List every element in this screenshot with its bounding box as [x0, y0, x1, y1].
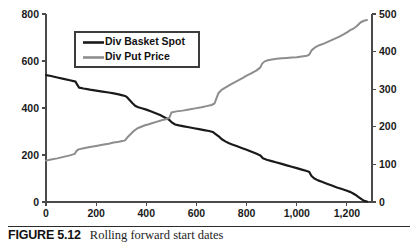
x-axis-ticks: 02004006008001,0001,200: [43, 202, 360, 219]
y-axis-left-tick-label: 800: [21, 8, 39, 20]
legend-label-div-basket-spot: Div Basket Spot: [105, 35, 185, 47]
figure-container: 0200400600800 0100200300400500 020040060…: [0, 0, 418, 252]
x-axis-tick-label: 400: [138, 207, 156, 219]
x-axis-tick-label: 600: [188, 207, 206, 219]
series-line-div-basket-spot: [46, 75, 367, 201]
figure-number-label: FIGURE 5.12: [8, 228, 81, 242]
y-axis-right-tick-label: 300: [379, 83, 397, 95]
x-axis-tick-label: 200: [87, 207, 105, 219]
y-axis-right-ticks: 0100200300400500: [372, 8, 397, 208]
legend-label-div-put-price: Div Put Price: [105, 50, 170, 62]
y-axis-right-tick-label: 200: [379, 120, 397, 132]
y-axis-left-tick-label: 200: [21, 149, 39, 161]
y-axis-right-tick-label: 400: [379, 45, 397, 57]
figure-caption-text: Rolling forward start dates: [90, 228, 224, 243]
x-axis-tick-label: 800: [238, 207, 256, 219]
y-axis-left-tick-label: 400: [21, 102, 39, 114]
caption-divider: [8, 226, 410, 227]
chart-svg: 0200400600800 0100200300400500 020040060…: [0, 0, 418, 222]
x-axis-tick-label: 1,200: [334, 207, 360, 219]
chart-plot-area: 0200400600800 0100200300400500 020040060…: [0, 0, 418, 222]
x-axis-tick-label: 1,000: [284, 207, 310, 219]
figure-caption: FIGURE 5.12 Rolling forward start dates: [8, 228, 410, 243]
y-axis-right-tick-label: 500: [379, 8, 397, 20]
y-axis-right-tick-label: 100: [379, 158, 397, 170]
chart-legend: Div Basket SpotDiv Put Price: [75, 32, 199, 67]
y-axis-right-tick-label: 0: [379, 196, 385, 208]
x-axis-tick-label: 0: [43, 207, 49, 219]
y-axis-left-tick-label: 0: [33, 196, 39, 208]
y-axis-left-ticks: 0200400600800: [21, 8, 46, 208]
y-axis-left-tick-label: 600: [21, 55, 39, 67]
